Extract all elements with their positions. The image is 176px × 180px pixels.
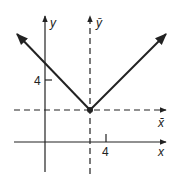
y-axis-label: y [49,16,57,30]
graph: y ȳ x̄ x 4 4 [0,0,176,180]
right-branch [90,34,166,110]
left-branch [17,34,90,110]
x-bar-axis-label: x̄ [157,116,165,130]
x-axis-label: x [157,145,165,159]
y-bar-axis-label: ȳ [95,16,103,30]
vertex-dot [87,107,93,113]
x-tick-label: 4 [102,145,109,159]
y-tick-label: 4 [34,74,41,88]
